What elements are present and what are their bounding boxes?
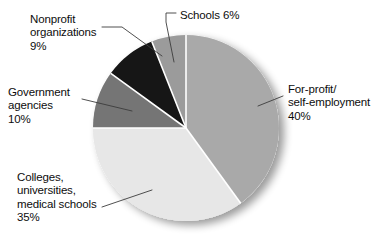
slice-label-government: Government agencies 10% xyxy=(8,86,70,126)
slice-label-for-profit: For-profit/ self-employment 40% xyxy=(288,83,370,123)
pie-chart-figure: Nonprofit organizations 9% Schools 6% Go… xyxy=(0,0,389,248)
pie-slices-group xyxy=(93,35,279,221)
slice-label-schools: Schools 6% xyxy=(180,9,239,22)
slice-label-colleges: Colleges, universities, medical schools … xyxy=(17,171,97,225)
slice-label-nonprofit: Nonprofit organizations 9% xyxy=(30,13,96,53)
